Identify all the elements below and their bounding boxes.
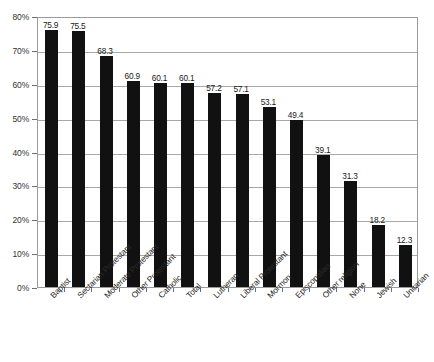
bar-value-label: 60.9: [117, 71, 147, 81]
gridline: [38, 255, 417, 256]
bar-value-label: 75.9: [36, 20, 66, 30]
bar-value-label: 57.2: [199, 83, 229, 93]
bar: [236, 94, 249, 287]
bar: [208, 93, 221, 287]
gridline: [38, 120, 417, 121]
y-axis-tick-label: 60%: [0, 80, 29, 90]
y-axis-tick-label: 30%: [0, 181, 29, 191]
y-axis-tick-label: 40%: [0, 148, 29, 158]
gridline: [38, 154, 417, 155]
bar-chart: 80%70%60%50%40%30%20%10%0% BaptistSectar…: [0, 0, 434, 362]
plot-area: [37, 17, 418, 288]
bar-value-label: 60.1: [172, 73, 202, 83]
bar-value-label: 53.1: [253, 97, 283, 107]
y-axis-tick-label: 50%: [0, 114, 29, 124]
bar-value-label: 49.4: [281, 110, 311, 120]
y-axis-tick-label: 80%: [0, 12, 29, 22]
bar-value-label: 31.3: [335, 171, 365, 181]
y-axis-tick-label: 0%: [0, 283, 29, 293]
y-axis-tick-label: 20%: [0, 215, 29, 225]
bar: [372, 225, 385, 287]
bar: [399, 245, 412, 287]
bar-value-label: 60.1: [144, 73, 174, 83]
bar-value-label: 12.3: [389, 235, 419, 245]
bar: [72, 31, 85, 287]
bar: [45, 30, 58, 287]
y-axis-tick-mark: [32, 288, 37, 289]
bar: [100, 56, 113, 287]
gridline: [38, 221, 417, 222]
bar-value-label: 68.3: [90, 46, 120, 56]
bar-value-label: 18.2: [362, 215, 392, 225]
gridline: [38, 187, 417, 188]
bar: [290, 120, 303, 287]
bar-value-label: 57.1: [226, 84, 256, 94]
bar-value-label: 39.1: [308, 145, 338, 155]
y-axis-tick-label: 10%: [0, 249, 29, 259]
y-axis-tick-label: 70%: [0, 46, 29, 56]
bar: [181, 83, 194, 287]
bar-value-label: 75.5: [63, 21, 93, 31]
